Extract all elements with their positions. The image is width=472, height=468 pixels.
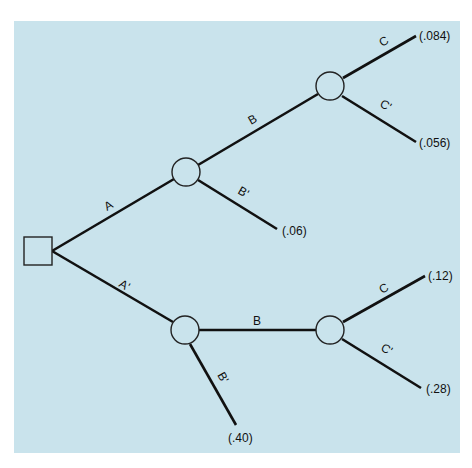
edge-A [52,179,174,251]
outcome-A-prime-B-C-prime: (.28) [426,382,451,396]
label-lower-B-prime: B' [214,370,231,386]
label-upper-B-prime: B' [236,183,252,200]
outcome-A-prime-B-C: (.12) [428,269,453,283]
edge-upper-B [198,94,318,165]
outcome-A-prime-B-prime: (.40) [228,431,253,445]
edge-A-prime [52,251,173,322]
label-lower-B: B [253,314,261,328]
label-A: A [102,197,116,213]
chance-node-A [172,158,200,186]
chance-node-A-prime-B [316,316,344,344]
label-upper-C: C [377,33,392,50]
outcome-A-B-C-prime: (.056) [419,136,450,150]
label-upper-C-prime: C' [378,96,394,114]
label-upper-B: B [246,111,260,127]
outcome-A-B-C: (.084) [419,29,450,43]
decision-node-square [24,237,52,265]
outcome-A-B-prime: (.06) [282,224,307,238]
label-lower-C: C [377,280,392,297]
edge-lower-B-prime [190,344,236,425]
chance-node-AB [316,72,344,100]
edge-upper-C-prime [342,96,416,142]
label-lower-C-prime: C' [379,340,395,358]
edge-upper-B-prime [198,180,277,229]
chance-node-A-prime [171,316,199,344]
decision-tree: A A' B B' C C' B B' C C' (.084) (.056) (… [0,0,472,468]
